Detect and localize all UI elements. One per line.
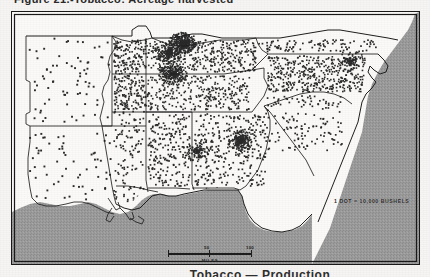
dot-density-map — [12, 12, 419, 264]
bottom-caption-clipped: Tobacco — Production — [150, 268, 370, 277]
map-frame: 1 DOT = 10,000 BUSHELS 50 100 MILES U. S… — [11, 11, 420, 265]
scale-bar-line: 50 100 — [164, 250, 256, 257]
scale-label-50: 50 — [204, 245, 209, 250]
top-caption-clipped: Figure 21.-Tobacco: Acreage harvested — [14, 0, 314, 5]
scale-tick-100 — [251, 250, 252, 257]
scale-bar: 50 100 MILES — [164, 250, 256, 263]
scanned-page: Figure 21.-Tobacco: Acreage harvested — [0, 0, 430, 277]
scale-tick-0 — [168, 250, 169, 257]
legend-dot-value: 1 DOT = 10,000 BUSHELS — [334, 198, 409, 204]
scale-label-100: 100 — [246, 245, 254, 250]
scale-tick-50 — [209, 250, 210, 257]
scale-unit-label: MILES — [164, 258, 256, 263]
